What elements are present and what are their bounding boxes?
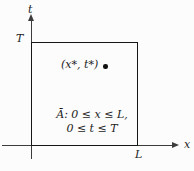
region-definition-line1: Ā: 0 ≤ x ≤ L, (44, 108, 140, 122)
x-axis-label: x (184, 139, 190, 150)
point-marker (103, 64, 108, 69)
t-axis-label: t (28, 4, 32, 15)
region-definition-line2: 0 ≤ t ≤ T (44, 122, 140, 136)
x-max-tick-label: L (135, 149, 142, 160)
x-axis-arrow-icon (172, 142, 179, 148)
point-label: (x*, t*) (61, 59, 98, 70)
figure-canvas: t T x L (x*, t*) Ā: 0 ≤ x ≤ L, 0 ≤ t ≤ T (0, 0, 194, 171)
t-max-tick-label: T (16, 33, 23, 44)
region-definition: Ā: 0 ≤ x ≤ L, 0 ≤ t ≤ T (44, 108, 140, 136)
